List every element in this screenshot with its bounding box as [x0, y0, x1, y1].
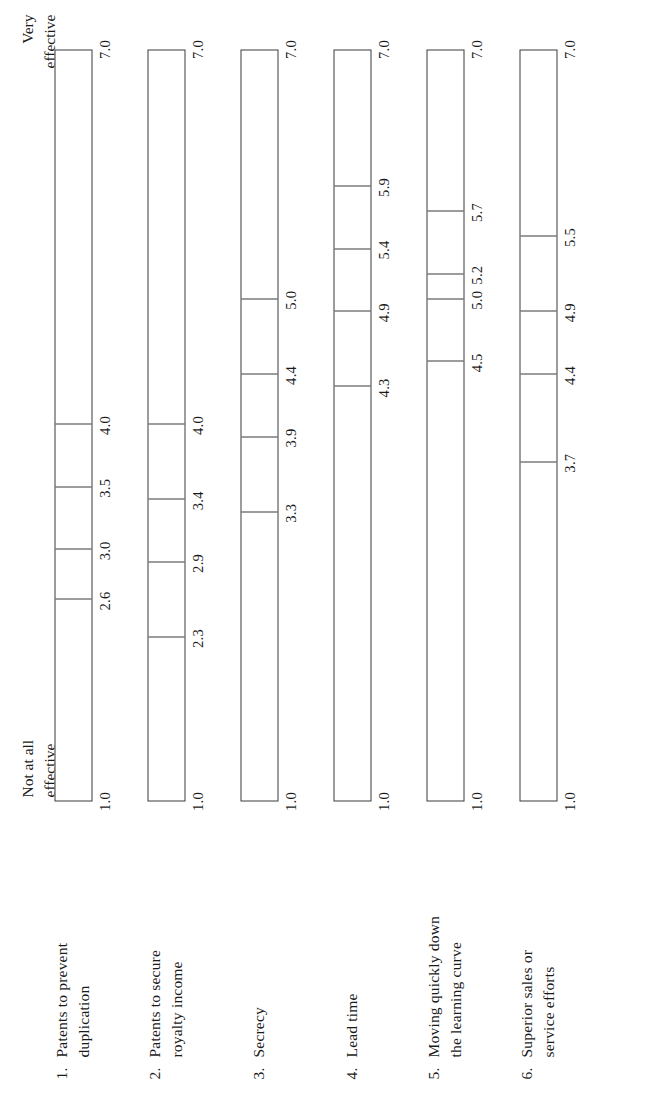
- scale-bar: [426, 49, 464, 801]
- tick-value-label: 2.3: [189, 629, 206, 648]
- mean-tick-mark: [55, 423, 91, 424]
- axis-min-label: 1.0: [96, 791, 113, 810]
- category-number: 6.: [515, 1067, 537, 1079]
- scale-bar: [240, 49, 278, 801]
- tick-value-label: 3.3: [282, 503, 299, 522]
- scale-bar: [333, 49, 371, 801]
- mean-tick-mark: [427, 298, 463, 299]
- tick-value-label: 4.5: [468, 353, 485, 372]
- mean-tick-mark: [148, 498, 184, 499]
- category-number: 2.: [143, 1067, 165, 1079]
- category-label: 6.Superior sales orservice efforts: [515, 829, 560, 1079]
- tick-value-label: 2.9: [189, 553, 206, 572]
- chart-row: 3.Secrecy3.33.94.45.01.07.0: [212, 0, 305, 1097]
- mean-tick-mark: [55, 548, 91, 549]
- axis-min-label: 1.0: [561, 791, 578, 810]
- category-label: 2.Patents to secureroyalty income: [143, 829, 188, 1079]
- tick-value-label: 5.7: [468, 202, 485, 221]
- tick-value-label: 3.7: [561, 453, 578, 472]
- mean-tick-mark: [55, 486, 91, 487]
- category-name: Lead time: [340, 829, 362, 1079]
- tick-value-label: 4.9: [375, 303, 392, 322]
- category-name: Secrecy: [247, 829, 269, 1079]
- category-name: Patents to secureroyalty income: [143, 829, 188, 1079]
- tick-value-label: 4.0: [189, 415, 206, 434]
- axis-min-label: 1.0: [468, 791, 485, 810]
- chart-row: 6.Superior sales orservice efforts3.74.4…: [491, 0, 584, 1097]
- tick-value-label: 5.0: [468, 290, 485, 309]
- tick-value-label: 2.6: [96, 591, 113, 610]
- tick-value-label: 5.4: [375, 240, 392, 259]
- chart-row: 1.Patents to preventduplication2.63.03.5…: [26, 0, 119, 1097]
- tick-value-label: 4.9: [561, 303, 578, 322]
- tick-value-label: 3.4: [189, 491, 206, 510]
- category-label: 4.Lead time: [340, 829, 362, 1079]
- mean-tick-mark: [520, 310, 556, 311]
- chart-row: 5.Moving quickly downthe learning curve4…: [398, 0, 491, 1097]
- scale-bar: [147, 49, 185, 801]
- tick-value-label: 4.0: [96, 415, 113, 434]
- figure-page: Not at all effective Very effective 1.Pa…: [0, 0, 649, 1097]
- axis-max-label: 7.0: [375, 39, 392, 58]
- tick-value-label: 4.3: [375, 378, 392, 397]
- mean-tick-mark: [241, 436, 277, 437]
- tick-value-label: 5.9: [375, 177, 392, 196]
- tick-value-label: 3.9: [282, 428, 299, 447]
- category-name: Patents to preventduplication: [50, 829, 95, 1079]
- tick-value-label: 5.2: [468, 265, 485, 284]
- mean-tick-mark: [427, 360, 463, 361]
- tick-value-label: 5.0: [282, 290, 299, 309]
- mean-tick-mark: [241, 298, 277, 299]
- axis-max-label: 7.0: [96, 39, 113, 58]
- mean-tick-mark: [427, 210, 463, 211]
- mean-tick-mark: [241, 373, 277, 374]
- category-number: 5.: [422, 1067, 444, 1079]
- mean-tick-mark: [148, 423, 184, 424]
- mean-tick-mark: [427, 273, 463, 274]
- mean-tick-mark: [334, 310, 370, 311]
- category-label: 1.Patents to preventduplication: [50, 829, 95, 1079]
- axis-min-label: 1.0: [189, 791, 206, 810]
- mean-tick-mark: [334, 248, 370, 249]
- mean-tick-mark: [148, 636, 184, 637]
- tick-value-label: 4.4: [282, 365, 299, 384]
- axis-max-label: 7.0: [282, 39, 299, 58]
- scale-bar: [54, 49, 92, 801]
- mean-tick-mark: [241, 511, 277, 512]
- mean-tick-mark: [334, 185, 370, 186]
- tick-value-label: 4.4: [561, 365, 578, 384]
- axis-max-label: 7.0: [468, 39, 485, 58]
- tick-value-label: 3.5: [96, 478, 113, 497]
- rotated-figure-stage: Not at all effective Very effective 1.Pa…: [0, 0, 649, 1097]
- category-name: Moving quickly downthe learning curve: [422, 829, 467, 1079]
- mean-tick-mark: [520, 373, 556, 374]
- category-name: Superior sales orservice efforts: [515, 829, 560, 1079]
- tick-value-label: 5.5: [561, 227, 578, 246]
- axis-max-label: 7.0: [561, 39, 578, 58]
- chart-row: 2.Patents to secureroyalty income2.32.93…: [119, 0, 212, 1097]
- mean-tick-mark: [334, 385, 370, 386]
- mean-tick-mark: [520, 461, 556, 462]
- effectiveness-bar-chart: Not at all effective Very effective 1.Pa…: [0, 0, 649, 1097]
- category-number: 3.: [247, 1067, 269, 1079]
- tick-value-label: 3.0: [96, 541, 113, 560]
- category-label: 3.Secrecy: [247, 829, 269, 1079]
- axis-min-label: 1.0: [375, 791, 392, 810]
- mean-tick-mark: [520, 235, 556, 236]
- mean-tick-mark: [55, 598, 91, 599]
- mean-tick-mark: [148, 561, 184, 562]
- axis-min-label: 1.0: [282, 791, 299, 810]
- axis-max-label: 7.0: [189, 39, 206, 58]
- category-number: 4.: [340, 1067, 362, 1079]
- category-number: 1.: [50, 1067, 72, 1079]
- chart-row: 4.Lead time4.34.95.45.91.07.0: [305, 0, 398, 1097]
- category-label: 5.Moving quickly downthe learning curve: [422, 829, 467, 1079]
- scale-bar: [519, 49, 557, 801]
